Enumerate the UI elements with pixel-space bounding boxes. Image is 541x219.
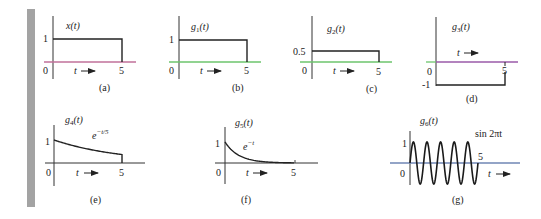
y-tick-label: 1 [43,33,48,44]
origin-label: 0 [169,65,174,76]
t-axis-label: t [333,65,336,76]
caption: (a) [99,82,110,94]
page-margin-bar [27,9,35,207]
expression-label: e−t [243,139,255,152]
origin-label: 0 [43,65,48,76]
function-label: g5(t) [235,117,254,130]
caption: (f) [241,194,251,206]
signal-curve [54,140,122,163]
panel-c: g2(t) 0.5 0 5 t (c) [293,16,392,95]
y-tick-label: 1 [45,136,50,147]
panel-f: g5(t) e−t 1 0 5 t (f) [215,117,318,206]
t-axis-label: t [246,167,249,178]
signal-curve [53,39,122,62]
origin-label: 0 [427,66,432,77]
origin-label: 0 [400,168,405,179]
function-label: g2(t) [327,23,346,36]
signals-figure: x(t) 1 0 5 t (a) g1(t) 1 0 5 t (b) g2(t) [0,0,541,219]
t-axis-label: t [488,168,491,179]
expression-label: sin 2πt [475,128,502,139]
figure-canvas: x(t) 1 0 5 t (a) g1(t) 1 0 5 t (b) g2(t) [0,0,541,219]
caption: (d) [466,93,478,105]
expression-label: e−t/5 [92,128,109,141]
t-axis-label: t [200,65,203,76]
y-tick-label: 0.5 [293,46,306,57]
t-axis-label: t [74,65,77,76]
x-tick-label: 5 [244,65,249,76]
function-label: g3(t) [452,21,471,34]
x-tick-label: 5 [119,65,124,76]
x-tick-label: 5 [119,167,124,178]
y-tick-label: 1 [215,138,220,149]
x-tick-label: 5 [478,151,483,162]
y-tick-label: -1 [422,79,430,90]
y-tick-label: 1 [402,138,407,149]
caption: (b) [232,82,244,94]
panel-a: x(t) 1 0 5 t (a) [43,16,136,94]
panel-e: g4(t) e−t/5 1 0 5 t (e) [45,114,145,206]
t-axis-label: t [76,167,79,178]
signal-curve [225,142,294,163]
x-tick-label: 5 [376,66,381,77]
caption: (g) [452,194,464,206]
function-label: g4(t) [65,114,84,127]
function-label: g6(t) [420,115,439,128]
panel-g: g6(t) sin 2πt 1 0 5 t (g) [390,115,520,206]
panel-b: g1(t) 1 0 5 t (b) [169,16,261,94]
x-tick-label: 5 [291,167,296,178]
signal-curve [436,72,505,85]
y-tick-label: 1 [169,34,174,45]
panel-d: g3(t) -1 0 5 t (d) [422,17,518,105]
function-label: x(t) [65,20,81,32]
caption: (e) [90,194,101,206]
caption: (c) [366,83,377,95]
origin-label: 0 [216,167,221,178]
function-label: g1(t) [191,21,210,34]
signal-curve [179,40,247,62]
origin-label: 0 [302,65,307,76]
t-axis-label: t [457,47,460,58]
x-tick-label: 5 [502,65,507,76]
origin-label: 0 [46,167,51,178]
signal-curve [312,51,379,62]
